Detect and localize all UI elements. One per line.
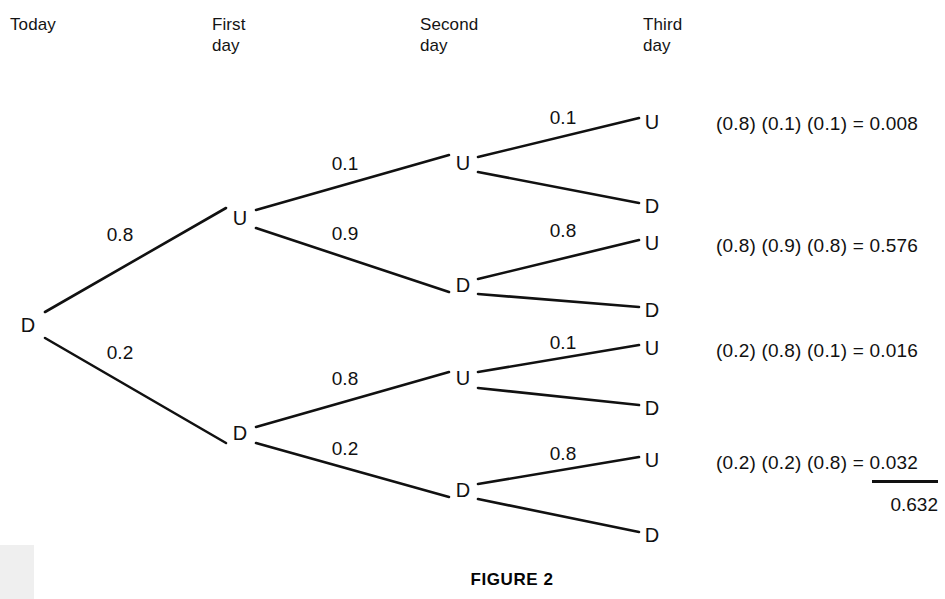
tree-edge (478, 388, 639, 405)
edge-probability-label: 0.1 (550, 108, 576, 127)
tree-node-d3-uuu: U (640, 112, 664, 132)
equation-expression: (0.8) (0.1) (0.1) = (716, 114, 864, 133)
tree-edge (478, 172, 639, 203)
tree-node-d3-udd: D (640, 300, 664, 320)
tree-node-d2-du: U (451, 368, 475, 388)
edge-probability-label: 0.8 (550, 221, 576, 240)
column-header-third-day: Third day (643, 14, 682, 56)
edge-probability-label: 0.1 (332, 154, 358, 173)
edge-probability-label: 0.2 (107, 343, 133, 362)
edge-probability-label: 0.1 (550, 333, 576, 352)
equation-result: 0.016 (869, 341, 918, 360)
figure-caption: FIGURE 2 (470, 570, 553, 590)
edge-probability-label: 0.2 (332, 439, 358, 458)
tree-node-d1-u: U (228, 208, 252, 228)
tree-edges-layer (0, 0, 945, 599)
tree-edge (45, 208, 226, 312)
tree-edge (45, 338, 226, 443)
edge-probability-label: 0.8 (332, 369, 358, 388)
equation-row: (0.2) (0.8) (0.1) = 0.016 (716, 341, 918, 360)
tree-node-d1-d: D (228, 423, 252, 443)
equation-result: 0.576 (869, 236, 918, 255)
tree-node-d3-uud: D (640, 196, 664, 216)
equation-expression: (0.8) (0.9) (0.8) = (716, 236, 864, 255)
equation-result: 0.008 (869, 114, 918, 133)
tree-node-d3-ddu: U (640, 450, 664, 470)
tree-edge (478, 240, 639, 279)
tree-node-root: D (16, 315, 40, 335)
edge-probability-label: 0.8 (550, 444, 576, 463)
column-header-today: Today (10, 14, 56, 35)
tree-node-d3-dud: D (640, 398, 664, 418)
equation-row: (0.8) (0.9) (0.8) = 0.576 (716, 236, 918, 255)
equation-result: 0.032 (869, 453, 918, 472)
edge-probability-label: 0.8 (107, 225, 133, 244)
sum-total-value: 0.632 (872, 495, 938, 514)
equation-expression: (0.2) (0.8) (0.1) = (716, 341, 864, 360)
tree-node-d3-ddd: D (640, 525, 664, 545)
equation-row: (0.2) (0.2) (0.8) = 0.032 (716, 453, 918, 472)
equation-expression: (0.2) (0.2) (0.8) = (716, 453, 864, 472)
tree-node-d3-duu: U (640, 338, 664, 358)
tree-node-d3-udu: U (640, 233, 664, 253)
edge-probability-label: 0.9 (332, 224, 358, 243)
tree-edge (478, 294, 639, 307)
column-header-first-day: First day (212, 14, 246, 56)
tree-node-d2-ud: D (451, 275, 475, 295)
tree-node-d2-dd: D (451, 480, 475, 500)
tree-edge (478, 499, 639, 532)
column-header-second-day: Second day (420, 14, 478, 56)
sum-divider-line (872, 480, 938, 483)
equation-row: (0.8) (0.1) (0.1) = 0.008 (716, 114, 918, 133)
figure-page: TodayFirst daySecond dayThird day DUDUDU… (0, 0, 945, 599)
tree-node-d2-uu: U (451, 153, 475, 173)
